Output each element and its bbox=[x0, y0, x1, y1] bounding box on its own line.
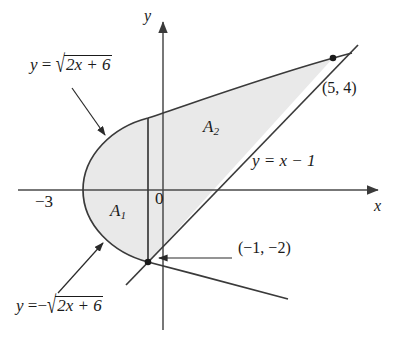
label-point-5-4: (5, 4) bbox=[322, 80, 357, 96]
point-marker-5-4 bbox=[330, 55, 337, 62]
label-curve-upper: y = √2x + 6 bbox=[30, 55, 112, 73]
label-region-a2: A2 bbox=[203, 118, 219, 137]
curve-upper-equals: = bbox=[42, 55, 52, 74]
label-curve-lower: y =−√2x + 6 bbox=[16, 296, 103, 314]
label-y-axis: y bbox=[144, 8, 151, 24]
label-x-axis: x bbox=[374, 198, 381, 214]
curve-lower-radicand: 2x + 6 bbox=[55, 296, 103, 314]
point-marker-minus1-minus2 bbox=[145, 259, 152, 266]
radical-sign: √ bbox=[47, 292, 56, 317]
curve-upper-radicand: 2x + 6 bbox=[64, 55, 112, 73]
leader-arrow-curve-upper bbox=[72, 88, 105, 135]
radical-sign: √ bbox=[56, 51, 65, 76]
label-origin: 0 bbox=[155, 190, 164, 207]
region-a1-base: A bbox=[110, 201, 120, 220]
region-a2-sub: 2 bbox=[213, 125, 219, 137]
region-a2-base: A bbox=[203, 117, 213, 136]
curve-lower-lhs: y bbox=[16, 296, 24, 315]
region-a1-sub: 1 bbox=[120, 209, 126, 221]
curve-upper-lhs: y bbox=[30, 55, 38, 74]
leader-arrow-curve-lower bbox=[58, 243, 103, 293]
curve-lower-equals: = bbox=[28, 296, 38, 315]
label-tick-minus3: −3 bbox=[35, 193, 53, 210]
curve-lower-minus-sign: − bbox=[37, 296, 47, 315]
label-line-equation: y = x − 1 bbox=[252, 152, 316, 169]
label-region-a1: A1 bbox=[110, 202, 126, 221]
label-point-minus1-minus2: (−1, −2) bbox=[238, 240, 291, 256]
